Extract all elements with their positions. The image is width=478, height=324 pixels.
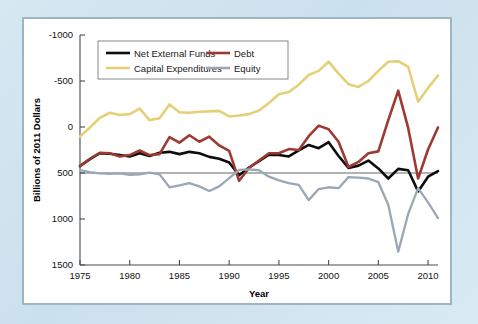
y-tick-label: 0 [68, 121, 73, 132]
y-tick-label: 500 [57, 167, 73, 178]
chart-series-layer [80, 61, 438, 251]
x-tick-label: 2005 [368, 270, 389, 281]
screenshot-root: 150010005000-500-1000 197519801985199019… [0, 0, 478, 324]
legend-label: Debt [234, 48, 254, 59]
chart-legend: Net External FundsDebtCapital Expenditur… [98, 41, 288, 79]
line-chart: 150010005000-500-1000 197519801985199019… [24, 19, 450, 303]
x-tick-label: 1995 [268, 270, 289, 281]
legend-label: Equity [234, 63, 261, 74]
y-tick-label: 1500 [52, 259, 73, 270]
x-axis-title: Year [249, 288, 269, 299]
y-tick-label: 1000 [52, 213, 73, 224]
x-tick-label: 2010 [417, 270, 438, 281]
series-line [80, 91, 438, 181]
series-line [80, 142, 438, 191]
x-tick-label: 1975 [69, 270, 90, 281]
y-axis-title: Billions of 2011 Dollars [31, 98, 42, 202]
x-axis-ticks: 19751980198519901995200020052010 [69, 260, 438, 281]
x-tick-label: 1980 [119, 270, 140, 281]
x-tick-label: 2000 [318, 270, 339, 281]
legend-label: Net External Funds [134, 48, 216, 59]
series-line [80, 169, 438, 251]
x-tick-label: 1985 [169, 270, 190, 281]
y-tick-label: -500 [54, 75, 73, 86]
x-tick-label: 1990 [219, 270, 240, 281]
y-tick-label: -1000 [49, 29, 73, 40]
chart-figure-panel: 150010005000-500-1000 197519801985199019… [22, 17, 452, 305]
